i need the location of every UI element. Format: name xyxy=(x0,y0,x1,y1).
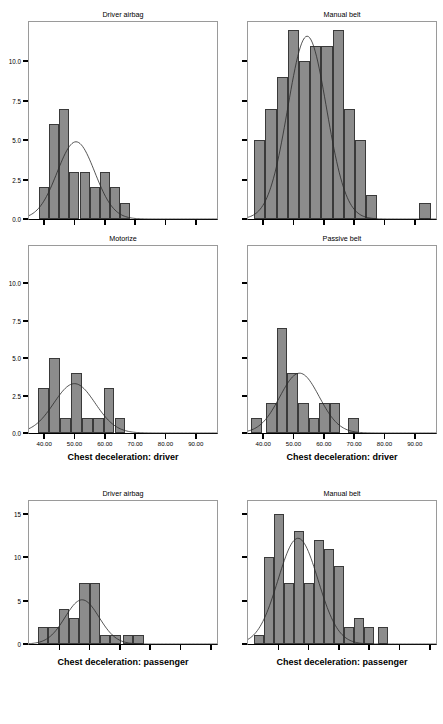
x-tick-label: 60.00 xyxy=(316,440,331,447)
bar xyxy=(110,635,120,644)
x-tick xyxy=(59,645,61,650)
bar xyxy=(355,140,366,219)
x-tick xyxy=(74,220,76,225)
y-tick-label: 2.5 xyxy=(12,176,21,183)
bar xyxy=(333,30,344,219)
bars-row1-left xyxy=(29,22,217,219)
y-axis-row2-right xyxy=(237,245,247,434)
x-tick-label: 80.00 xyxy=(377,440,392,447)
bar xyxy=(90,187,100,219)
y-tick-label: 5.0 xyxy=(12,355,21,362)
panel-title-row2-right: Passive belt xyxy=(247,232,437,245)
bar xyxy=(304,583,314,644)
y-axis-row3-left: 051015 xyxy=(1,500,28,645)
x-axis-row2-left: 40.0050.0060.0070.0080.0090.00 xyxy=(29,434,217,450)
plot-area-row3-left xyxy=(28,500,218,645)
x-tick-label: 70.00 xyxy=(347,440,362,447)
bar xyxy=(93,418,104,433)
y-tick xyxy=(242,60,247,62)
bar xyxy=(100,172,110,219)
x-tick-label: 40.00 xyxy=(256,440,271,447)
panel-row1-right: Manual belt xyxy=(247,8,437,220)
y-tick-label: 2.5 xyxy=(12,392,21,399)
bar xyxy=(288,30,299,219)
bar xyxy=(378,627,388,644)
bar xyxy=(344,627,354,644)
y-axis-row2-left: 0.02.55.07.510.0 xyxy=(1,245,28,434)
bar xyxy=(59,609,69,644)
y-tick xyxy=(23,320,28,322)
y-tick-label: 0 xyxy=(17,641,21,648)
bar xyxy=(310,46,321,219)
y-tick xyxy=(242,643,247,645)
y-tick xyxy=(23,357,28,359)
y-tick xyxy=(23,100,28,102)
y-tick xyxy=(23,218,28,220)
bar xyxy=(324,549,334,644)
bar xyxy=(266,403,277,433)
bar xyxy=(366,195,377,219)
y-tick xyxy=(23,600,28,602)
x-tick xyxy=(74,434,76,439)
x-tick xyxy=(368,645,370,650)
bar xyxy=(314,540,324,644)
x-tick-label: 70.00 xyxy=(128,440,143,447)
plot-area-row3-right xyxy=(247,500,437,645)
x-tick-label: 90.00 xyxy=(407,440,422,447)
y-axis-row3-right xyxy=(237,500,247,645)
y-tick-label: 5.0 xyxy=(12,137,21,144)
bar xyxy=(120,203,130,219)
bar xyxy=(265,109,276,219)
x-tick-label: 40.00 xyxy=(37,440,52,447)
y-tick xyxy=(23,513,28,515)
plot-area-row2-right xyxy=(247,245,437,434)
bar xyxy=(299,61,310,219)
bar xyxy=(364,627,374,644)
y-tick xyxy=(23,282,28,284)
bar xyxy=(49,124,59,219)
bar xyxy=(100,635,110,644)
bar xyxy=(284,583,294,644)
bar xyxy=(48,627,58,644)
x-tick xyxy=(323,220,325,225)
y-tick xyxy=(23,643,28,645)
bars-row3-right xyxy=(248,501,436,644)
bar xyxy=(90,583,100,644)
bar xyxy=(294,531,304,644)
y-axis-row1-right xyxy=(237,21,247,220)
bar xyxy=(251,418,262,433)
y-tick-label: 10.0 xyxy=(9,58,21,65)
x-tick xyxy=(399,645,401,650)
bar xyxy=(344,109,355,219)
bar xyxy=(354,618,364,644)
y-tick xyxy=(242,357,247,359)
y-tick xyxy=(242,432,247,434)
x-tick xyxy=(43,220,45,225)
bar xyxy=(123,635,133,644)
x-tick-label: 60.00 xyxy=(97,440,112,447)
x-tick xyxy=(323,434,325,439)
y-tick xyxy=(23,395,28,397)
x-tick xyxy=(293,434,295,439)
bars-row3-left xyxy=(29,501,217,644)
panel-title-row2-left: Motorize xyxy=(28,232,218,245)
bar xyxy=(254,140,265,219)
x-tick xyxy=(89,645,91,650)
panel-row2-right: Passive belt40.0050.0060.0070.0080.0090.… xyxy=(247,232,437,434)
x-tick xyxy=(165,220,167,225)
x-tick xyxy=(414,434,416,439)
bar xyxy=(334,566,344,644)
bar xyxy=(80,172,90,219)
y-tick xyxy=(23,432,28,434)
y-tick-label: 7.5 xyxy=(12,97,21,104)
x-tick xyxy=(134,220,136,225)
x-tick xyxy=(104,434,106,439)
plot-area-row1-right xyxy=(247,21,437,220)
x-axis-title-row3-right: Chest deceleration: passenger xyxy=(247,657,437,667)
bar xyxy=(277,77,288,219)
y-tick xyxy=(242,556,247,558)
y-tick-label: 10.0 xyxy=(9,280,21,287)
x-tick xyxy=(429,645,431,650)
y-tick xyxy=(242,600,247,602)
y-tick-label: 0.0 xyxy=(12,216,21,223)
